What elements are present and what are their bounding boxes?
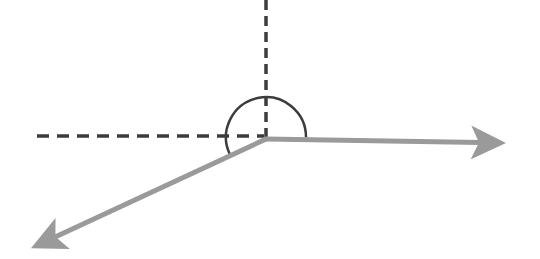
lower-left-vector-arrow	[40, 139, 266, 244]
right-vector-arrow	[266, 139, 496, 143]
vertex-point	[264, 137, 269, 142]
diagram-canvas	[0, 0, 540, 259]
angle-diagram	[0, 0, 540, 259]
